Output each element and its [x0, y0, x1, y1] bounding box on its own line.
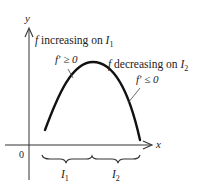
function-curve: [45, 62, 140, 140]
x-axis: [5, 141, 152, 149]
origin-label: 0: [19, 149, 24, 160]
interval-label-i2: I2: [111, 168, 120, 183]
interval-brace: [42, 155, 140, 163]
x-axis-label: x: [155, 138, 161, 150]
y-axis-label: y: [24, 12, 30, 24]
decreasing-annotation: f decreasing on I2: [108, 58, 188, 73]
decreasing-leader-line: [128, 88, 140, 103]
interval-label-i1: I1: [60, 168, 69, 183]
increasing-derivative-label: f′ ≥ 0: [55, 53, 78, 65]
function-monotonicity-diagram: y x 0 f increasing on I1 f′ ≥ 0 f decrea…: [0, 0, 200, 185]
increasing-annotation: f increasing on I1: [35, 34, 113, 49]
y-axis: [25, 28, 33, 180]
decreasing-derivative-label: f′ ≤ 0: [136, 73, 159, 85]
